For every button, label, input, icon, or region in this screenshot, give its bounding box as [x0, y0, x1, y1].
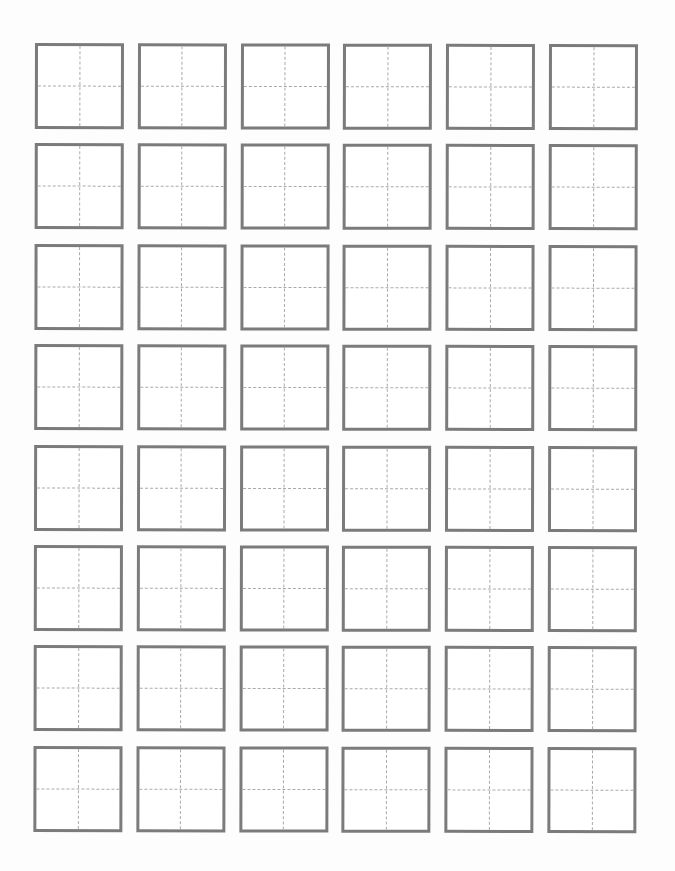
- horizontal-guide-line: [37, 588, 120, 589]
- horizontal-guide-line: [242, 688, 325, 689]
- practice-cell: [34, 645, 123, 731]
- horizontal-guide-line: [36, 788, 119, 789]
- horizontal-guide-line: [551, 388, 634, 389]
- horizontal-guide-line: [345, 588, 428, 589]
- practice-cell: [446, 245, 535, 331]
- practice-cell: [137, 344, 226, 430]
- practice-cell: [35, 43, 124, 129]
- practice-cell: [240, 144, 329, 230]
- practice-cell: [35, 143, 124, 229]
- practice-cell: [445, 345, 534, 431]
- practice-cell: [239, 746, 328, 832]
- practice-cell: [445, 646, 534, 732]
- practice-cell: [342, 646, 431, 732]
- horizontal-guide-line: [243, 488, 326, 489]
- practice-cell: [445, 546, 534, 632]
- horizontal-guide-line: [37, 286, 120, 287]
- practice-cell: [548, 245, 637, 331]
- horizontal-guide-line: [550, 789, 633, 790]
- practice-cell: [137, 244, 226, 330]
- practice-cell: [446, 144, 535, 230]
- horizontal-guide-line: [140, 487, 223, 488]
- practice-cell: [343, 244, 432, 330]
- practice-cell: [549, 44, 638, 130]
- horizontal-guide-line: [243, 186, 326, 187]
- practice-cell: [343, 44, 432, 130]
- practice-cell: [239, 646, 328, 732]
- horizontal-guide-line: [449, 287, 532, 288]
- horizontal-guide-line: [242, 789, 325, 790]
- practice-cell: [33, 746, 122, 832]
- practice-cell: [342, 746, 431, 832]
- practice-cell: [136, 646, 225, 732]
- horizontal-guide-line: [448, 588, 531, 589]
- practice-cell: [548, 546, 637, 632]
- horizontal-guide-line: [346, 287, 429, 288]
- horizontal-guide-line: [448, 689, 531, 690]
- horizontal-guide-line: [551, 589, 634, 590]
- horizontal-guide-line: [243, 287, 326, 288]
- horizontal-guide-line: [244, 86, 327, 87]
- practice-cell: [239, 545, 328, 631]
- horizontal-guide-line: [38, 186, 121, 187]
- horizontal-guide-line: [38, 86, 121, 87]
- horizontal-guide-line: [140, 287, 223, 288]
- horizontal-guide-line: [346, 86, 429, 87]
- practice-cell: [547, 747, 636, 833]
- horizontal-guide-line: [140, 588, 223, 589]
- practice-cell: [240, 445, 329, 531]
- horizontal-guide-line: [37, 688, 120, 689]
- horizontal-guide-line: [551, 689, 634, 690]
- horizontal-guide-line: [37, 387, 120, 388]
- practice-cell: [137, 445, 226, 531]
- horizontal-guide-line: [449, 86, 532, 87]
- worksheet-page: [0, 0, 675, 871]
- practice-cell: [548, 345, 637, 431]
- practice-cell: [549, 144, 638, 230]
- practice-cell: [445, 747, 534, 833]
- horizontal-guide-line: [552, 187, 635, 188]
- practice-cell: [240, 345, 329, 431]
- practice-cell: [34, 445, 123, 531]
- horizontal-guide-line: [345, 789, 428, 790]
- practice-cell: [343, 345, 432, 431]
- practice-cell: [240, 244, 329, 330]
- horizontal-guide-line: [346, 187, 429, 188]
- horizontal-guide-line: [139, 688, 222, 689]
- practice-cell: [342, 546, 431, 632]
- practice-cell: [445, 445, 534, 531]
- horizontal-guide-line: [449, 187, 532, 188]
- practice-cell: [342, 445, 431, 531]
- horizontal-guide-line: [552, 87, 635, 88]
- practice-cell: [446, 44, 535, 130]
- practice-cell: [548, 646, 637, 732]
- horizontal-guide-line: [37, 487, 120, 488]
- practice-cell: [548, 446, 637, 532]
- practice-cell: [136, 746, 225, 832]
- practice-cell: [240, 43, 329, 129]
- practice-grid: [33, 43, 641, 836]
- horizontal-guide-line: [140, 387, 223, 388]
- horizontal-guide-line: [345, 689, 428, 690]
- horizontal-guide-line: [140, 186, 223, 187]
- practice-cell: [34, 244, 123, 330]
- horizontal-guide-line: [551, 287, 634, 288]
- horizontal-guide-line: [141, 86, 224, 87]
- practice-cell: [34, 545, 123, 631]
- practice-cell: [343, 144, 432, 230]
- horizontal-guide-line: [243, 387, 326, 388]
- horizontal-guide-line: [345, 488, 428, 489]
- horizontal-guide-line: [551, 488, 634, 489]
- horizontal-guide-line: [448, 388, 531, 389]
- practice-cell: [137, 545, 226, 631]
- practice-cell: [137, 144, 226, 230]
- horizontal-guide-line: [242, 588, 325, 589]
- horizontal-guide-line: [448, 488, 531, 489]
- horizontal-guide-line: [139, 789, 222, 790]
- horizontal-guide-line: [346, 387, 429, 388]
- practice-cell: [138, 43, 227, 129]
- horizontal-guide-line: [448, 789, 531, 790]
- practice-cell: [34, 344, 123, 430]
